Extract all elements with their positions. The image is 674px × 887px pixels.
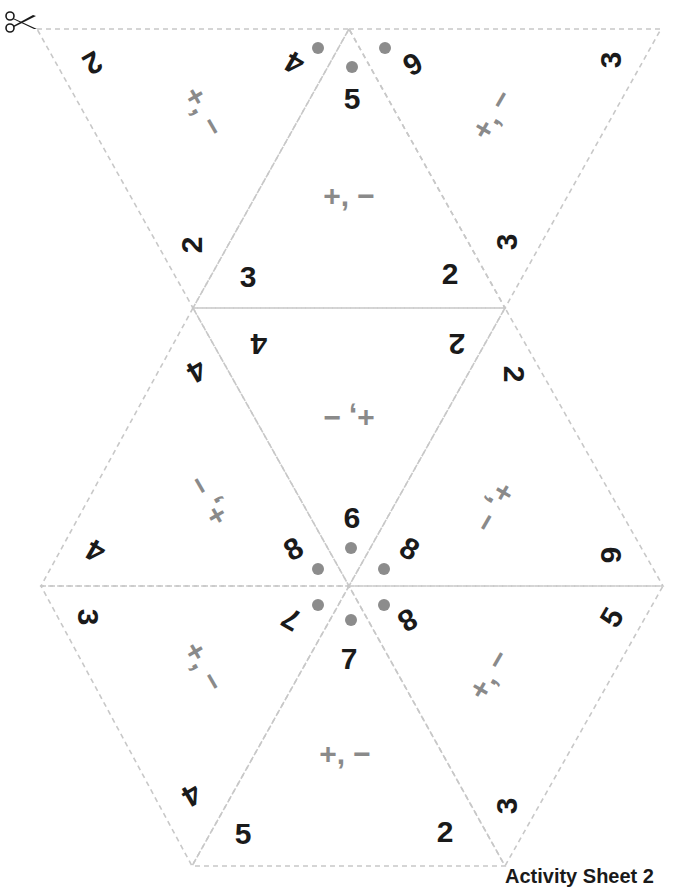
- marker-dot: [378, 563, 390, 575]
- triangle-number: 2: [430, 259, 470, 291]
- marker-dot: [345, 542, 357, 554]
- marker-dot: [312, 42, 324, 54]
- triangle-number: 9: [332, 501, 372, 533]
- triangle-number: 3: [596, 40, 628, 80]
- triangle-number: 3: [228, 262, 268, 294]
- marker-dot: [378, 599, 390, 611]
- marker-dot: [312, 563, 324, 575]
- triangle-number: 2: [425, 817, 465, 849]
- triangle-number: 3: [492, 786, 524, 826]
- operations-label: +, −: [304, 401, 394, 433]
- marker-dot: [345, 614, 357, 626]
- footer-title: Activity Sheet 2: [505, 866, 654, 886]
- marker-dot: [379, 42, 391, 54]
- operations-label: +, −: [300, 739, 390, 771]
- marker-dot: [346, 61, 358, 73]
- triangle-number: 5: [332, 84, 372, 116]
- operations-label: +, −: [304, 181, 394, 213]
- triangle-number: 2: [177, 225, 209, 265]
- marker-dot: [312, 599, 324, 611]
- triangle-number: 2: [497, 354, 529, 394]
- scissors-icon: [3, 9, 39, 35]
- triangle-number: 6: [594, 535, 626, 575]
- triangle-number: 2: [437, 327, 477, 359]
- triangle-number: 3: [492, 222, 524, 262]
- triangle-number: 7: [329, 644, 369, 676]
- triangle-number: 5: [223, 819, 263, 851]
- triangle-number: 3: [71, 597, 103, 637]
- triangle-number: 4: [239, 327, 279, 359]
